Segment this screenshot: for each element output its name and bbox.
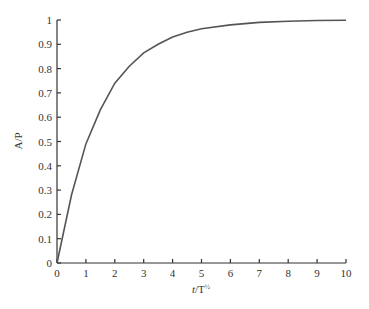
y-tick-label: 0.2 [38, 208, 52, 220]
x-tick-label: 7 [257, 267, 263, 279]
x-tick-label: 4 [170, 267, 176, 279]
x-tick-label: 1 [83, 267, 89, 279]
axes [57, 20, 346, 263]
x-tick-label: 8 [285, 267, 291, 279]
x-axis-title: t/T½ [192, 283, 210, 295]
x-tick-label: 6 [228, 267, 234, 279]
y-tick-label: 0.6 [38, 111, 52, 123]
x-tick-label: 3 [141, 267, 147, 279]
x-ticks: 012345678910 [54, 259, 352, 279]
y-tick-label: 0.1 [38, 233, 52, 245]
y-tick-label: 0.5 [38, 136, 52, 148]
y-axis-title: A/P [12, 132, 24, 149]
y-tick-label: 0.4 [38, 160, 52, 172]
line-chart: 012345678910 00.10.20.30.40.50.60.70.80.… [0, 0, 369, 309]
x-tick-label: 2 [112, 267, 118, 279]
y-tick-label: 0.7 [38, 87, 52, 99]
y-tick-label: 0 [47, 257, 53, 269]
x-tick-label: 0 [54, 267, 60, 279]
y-tick-label: 0.8 [38, 63, 52, 75]
y-tick-label: 1 [47, 14, 53, 26]
y-tick-label: 0.3 [38, 184, 52, 196]
data-line [57, 20, 346, 263]
x-tick-label: 9 [314, 267, 320, 279]
x-tick-label: 10 [341, 267, 353, 279]
x-tick-label: 5 [199, 267, 205, 279]
y-tick-label: 0.9 [38, 38, 52, 50]
